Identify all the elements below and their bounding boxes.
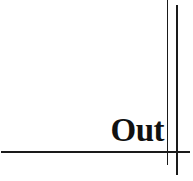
vertical-rule-outer [176, 5, 178, 175]
out-label: Out [110, 113, 164, 147]
vertical-rule-inner [167, 0, 168, 165]
crop-mark-figure: Out [0, 0, 193, 181]
horizontal-rule [1, 151, 190, 153]
